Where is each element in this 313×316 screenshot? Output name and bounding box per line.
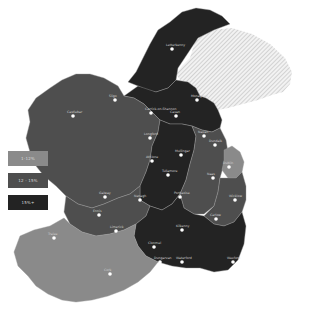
town-marker-icon[interactable] [150, 159, 154, 163]
town-label: Letterkenny [166, 43, 185, 47]
town-marker-icon[interactable] [138, 198, 142, 202]
town-marker-icon[interactable] [213, 143, 217, 147]
town-label: Mullingar [175, 149, 190, 153]
town-label: Monaghan [191, 94, 208, 98]
town-label: Tralee [47, 232, 58, 236]
town-marker-icon[interactable] [71, 114, 75, 118]
town-marker-icon[interactable] [113, 98, 117, 102]
town-label: Clonmel [148, 241, 161, 245]
town-label: Sligo [109, 94, 117, 98]
town-marker-icon[interactable] [149, 111, 153, 115]
legend: 1-12% 12 - 15% 15%+ [8, 151, 48, 217]
town-label: Kilkenny [176, 224, 190, 228]
town-label: Naas [207, 172, 215, 176]
town-label: Dundalk [209, 139, 222, 143]
town-marker-icon[interactable] [214, 217, 218, 221]
town-label: Portlaoise [174, 191, 190, 195]
town-marker-icon[interactable] [195, 98, 199, 102]
legend-label-low: 1-12% [21, 156, 35, 161]
town-marker-icon[interactable] [152, 245, 156, 249]
town-marker-icon[interactable] [180, 228, 184, 232]
town-label: Nenagh [134, 194, 146, 198]
town-label: Dublin [223, 161, 233, 165]
legend-item-low: 1-12% [8, 151, 48, 166]
town-marker-icon[interactable] [97, 213, 101, 217]
town-label: Cavan [170, 110, 180, 114]
town-marker-icon[interactable] [148, 136, 152, 140]
town-label: Wicklow [229, 194, 242, 198]
town-label: Carlow [210, 213, 221, 217]
legend-item-high: 15%+ [8, 195, 48, 210]
town-marker-icon[interactable] [231, 260, 235, 264]
legend-item-mid: 12 - 15% [8, 173, 48, 188]
town-marker-icon[interactable] [233, 198, 237, 202]
town-marker-icon[interactable] [227, 165, 231, 169]
town-label: Navan [198, 130, 208, 134]
legend-label-high: 15%+ [21, 200, 34, 205]
town-label: Waterford [176, 256, 192, 260]
town-marker-icon[interactable] [108, 272, 112, 276]
town-marker-icon[interactable] [178, 195, 182, 199]
legend-label-mid: 12 - 15% [18, 178, 38, 183]
town-marker-icon[interactable] [166, 173, 170, 177]
town-marker-icon[interactable] [174, 114, 178, 118]
town-label: Athlone [146, 155, 158, 159]
town-marker-icon[interactable] [103, 195, 107, 199]
town-label: Ennis [93, 209, 102, 213]
town-label: Dungarvan [154, 256, 172, 260]
town-label: Limerick [110, 225, 124, 229]
town-marker-icon[interactable] [202, 134, 206, 138]
town-marker-icon[interactable] [52, 236, 56, 240]
town-marker-icon[interactable] [170, 47, 174, 51]
town-label: Tullamore [161, 169, 178, 173]
town-marker-icon[interactable] [180, 260, 184, 264]
town-label: Longford [144, 132, 158, 136]
town-label: Castlebar [67, 110, 83, 114]
town-marker-icon[interactable] [211, 176, 215, 180]
town-label: Cork [104, 268, 111, 272]
town-label: Wexford [227, 256, 240, 260]
town-label: Galway [99, 191, 111, 195]
town-marker-icon[interactable] [114, 229, 118, 233]
town-marker-icon[interactable] [158, 260, 162, 264]
town-marker-icon[interactable] [179, 153, 183, 157]
